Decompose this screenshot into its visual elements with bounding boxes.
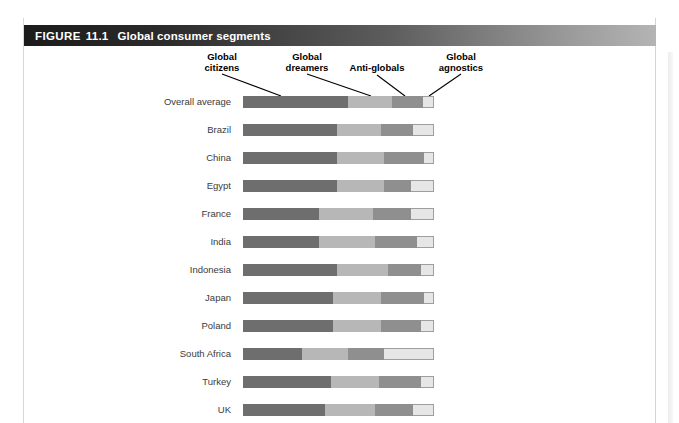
leader-line-global-dreamers [307,74,371,96]
bar-segment-global-citizens [243,152,337,164]
bar-segment-global-dreamers [331,376,379,388]
bar-segment-anti-globals [384,152,424,164]
bar-segment-global-agnostics [421,376,434,388]
bar-segment-global-dreamers [348,96,392,108]
bar-segment-global-citizens [243,208,319,220]
bar-segment-global-agnostics [413,124,434,136]
legend-label-line2: agnostics [411,63,511,74]
stacked-bar [243,320,434,332]
bar-segment-global-agnostics [417,236,434,248]
chart-row: Poland [24,320,656,348]
row-label: Overall average [24,96,237,108]
bar-segment-global-dreamers [337,152,385,164]
bar-segment-anti-globals [379,376,421,388]
stacked-bar [243,152,434,164]
row-label: China [24,152,237,164]
legend-label-line1: Global [411,52,511,63]
bar-segment-global-citizens [243,96,348,108]
bar-segment-global-agnostics [411,208,434,220]
bar-segment-global-dreamers [333,292,381,304]
stacked-bar [243,376,434,388]
chart-row: France [24,208,656,236]
leader-line-anti-globals [377,75,405,96]
chart-row: Brazil [24,124,656,152]
row-label: Egypt [24,180,237,192]
chart-row: Turkey [24,376,656,404]
bar-segment-global-citizens [243,124,337,136]
bar-segment-global-dreamers [337,180,385,192]
bar-segment-global-dreamers [333,320,381,332]
stacked-bar [243,348,434,360]
stacked-bar [243,208,434,220]
chart-row: Egypt [24,180,656,208]
chart-row: Overall average [24,96,656,124]
stacked-bar [243,404,434,416]
bar-segment-anti-globals [381,320,421,332]
bar-segment-global-agnostics [421,320,434,332]
bar-segment-global-agnostics [421,264,434,276]
bar-segment-global-agnostics [424,292,434,304]
row-label: Brazil [24,124,237,136]
bar-segment-anti-globals [375,404,413,416]
bar-segment-global-agnostics [413,404,434,416]
chart-legend: GlobalcitizensGlobaldreamersAnti-globals… [24,46,656,96]
bar-segment-anti-globals [375,236,417,248]
row-label: South Africa [24,348,237,360]
row-label: India [24,236,237,248]
stacked-bar-chart: GlobalcitizensGlobaldreamersAnti-globals… [24,46,656,423]
row-label: Poland [24,320,237,332]
chart-row: Japan [24,292,656,320]
legend-label-line1: Global [257,52,357,63]
bar-segment-global-citizens [243,376,331,388]
bar-segment-global-citizens [243,404,325,416]
bar-segment-global-agnostics [424,152,434,164]
stacked-bar [243,180,434,192]
chart-row: UK [24,404,656,423]
row-label: Japan [24,292,237,304]
bar-segment-global-citizens [243,348,302,360]
chart-row: China [24,152,656,180]
legend-item-global-agnostics: Globalagnostics [411,52,511,73]
stacked-bar [243,264,434,276]
bar-segment-global-citizens [243,292,333,304]
bar-segment-anti-globals [381,124,413,136]
bar-segment-global-citizens [243,264,337,276]
figure-header: FIGURE 11.1 Global consumer segments [24,25,656,46]
bar-segment-global-citizens [243,236,319,248]
bar-segment-anti-globals [348,348,384,360]
bar-segment-anti-globals [381,292,425,304]
bar-segment-anti-globals [384,180,411,192]
bar-segment-global-agnostics [384,348,434,360]
row-label: Turkey [24,376,237,388]
row-label: Indonesia [24,264,237,276]
chart-row: South Africa [24,348,656,376]
bar-segment-global-citizens [243,180,337,192]
bar-segment-global-dreamers [319,208,372,220]
stacked-bar [243,124,434,136]
chart-rows: Overall averageBrazilChinaEgyptFranceInd… [24,96,656,423]
chart-row: India [24,236,656,264]
bar-segment-global-dreamers [302,348,348,360]
row-label: UK [24,404,237,416]
leader-line-global-citizens [222,74,281,96]
stacked-bar [243,96,434,108]
leader-line-global-agnostics [429,74,461,96]
bar-segment-global-dreamers [325,404,375,416]
bar-segment-anti-globals [392,96,423,108]
row-label: France [24,208,237,220]
bar-segment-anti-globals [373,208,411,220]
figure-word: FIGURE [35,30,81,42]
page-edge-strip [668,52,673,423]
bar-segment-global-dreamers [337,124,381,136]
bar-segment-global-dreamers [319,236,374,248]
chart-row: Indonesia [24,264,656,292]
figure-title: Global consumer segments [117,30,270,42]
figure-number: 11.1 [86,30,109,42]
stacked-bar [243,292,434,304]
bar-segment-global-agnostics [411,180,434,192]
bar-segment-anti-globals [388,264,420,276]
bar-segment-global-agnostics [423,96,434,108]
bar-segment-global-citizens [243,320,333,332]
stacked-bar [243,236,434,248]
bar-segment-global-dreamers [337,264,389,276]
